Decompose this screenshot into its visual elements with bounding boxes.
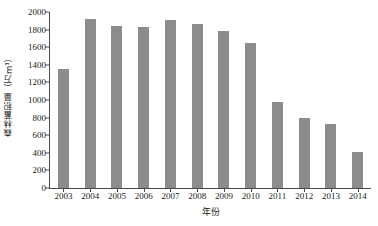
x-axis-tick-mark bbox=[251, 189, 252, 192]
bar bbox=[352, 152, 363, 188]
x-axis-tick-mark bbox=[358, 189, 359, 192]
y-axis-tick-label: 1400 bbox=[28, 60, 46, 69]
y-axis-tick-mark bbox=[45, 135, 49, 136]
bar bbox=[245, 43, 256, 188]
x-axis-tick-mark bbox=[170, 189, 171, 192]
y-axis-tick-label: 1800 bbox=[28, 25, 46, 34]
y-axis-tick-mark bbox=[45, 12, 49, 13]
bar bbox=[325, 124, 336, 188]
y-axis-tick-mark bbox=[45, 100, 49, 101]
x-axis-tick-label: 2010 bbox=[242, 191, 260, 202]
y-axis-tick-mark bbox=[45, 82, 49, 83]
x-axis-tick-mark bbox=[90, 189, 91, 192]
x-axis-tick-mark bbox=[277, 189, 278, 192]
y-axis-tick-mark bbox=[45, 152, 49, 153]
y-axis-tick-labels: 0200400600800100012001400160018002000 bbox=[16, 0, 46, 190]
x-axis-tick-mark bbox=[197, 189, 198, 192]
bar-chart: 森林蓄积量（万m³） 02004006008001000120014001600… bbox=[0, 0, 378, 226]
bar bbox=[58, 69, 69, 188]
x-axis-tick-label: 2005 bbox=[108, 191, 126, 202]
x-axis-tick-label: 2003 bbox=[54, 191, 72, 202]
y-axis-tick-label: 200 bbox=[33, 166, 47, 175]
x-axis-tick-mark bbox=[117, 189, 118, 192]
x-axis-line bbox=[49, 188, 371, 189]
bar bbox=[165, 20, 176, 188]
x-axis-tick-label: 2012 bbox=[295, 191, 313, 202]
bar bbox=[85, 19, 96, 188]
y-axis-tick-mark bbox=[45, 188, 49, 189]
x-axis-tick-label: 2011 bbox=[269, 191, 287, 202]
y-axis-tick-mark bbox=[45, 117, 49, 118]
x-axis-tick-mark bbox=[331, 189, 332, 192]
x-axis-tick-label: 2007 bbox=[161, 191, 179, 202]
y-axis-tick-mark bbox=[45, 170, 49, 171]
y-axis-tick-label: 800 bbox=[33, 113, 47, 122]
y-axis-tick-mark bbox=[45, 47, 49, 48]
x-axis-tick-label: 2009 bbox=[215, 191, 233, 202]
y-axis-tick-label: 1000 bbox=[28, 96, 46, 105]
x-axis-tick-mark bbox=[224, 189, 225, 192]
y-axis-tick-label: 2000 bbox=[28, 8, 46, 17]
bar bbox=[192, 24, 203, 188]
bar bbox=[299, 118, 310, 188]
bar bbox=[272, 102, 283, 188]
bar bbox=[218, 31, 229, 188]
bar bbox=[138, 27, 149, 188]
x-axis-title: 年份 bbox=[50, 205, 371, 218]
x-axis-tick-label: 2004 bbox=[81, 191, 99, 202]
y-axis-tick-mark bbox=[45, 29, 49, 30]
x-axis-tick-label: 2008 bbox=[188, 191, 206, 202]
x-axis-tick-label: 2014 bbox=[349, 191, 367, 202]
plot-area bbox=[50, 12, 371, 188]
x-axis-tick-label: 2006 bbox=[135, 191, 153, 202]
y-axis-tick-label: 1200 bbox=[28, 78, 46, 87]
x-axis-tick-mark bbox=[144, 189, 145, 192]
x-axis-tick-mark bbox=[63, 189, 64, 192]
y-axis-tick-mark bbox=[45, 64, 49, 65]
y-axis-tick-label: 600 bbox=[33, 131, 47, 140]
y-axis-tick-label: 1600 bbox=[28, 43, 46, 52]
bar bbox=[111, 26, 122, 188]
x-axis-tick-label: 2013 bbox=[322, 191, 340, 202]
x-axis-tick-mark bbox=[304, 189, 305, 192]
x-axis-tick-labels: 2003200420052006200720082009201020112012… bbox=[50, 191, 371, 205]
y-axis-tick-label: 400 bbox=[33, 148, 47, 157]
